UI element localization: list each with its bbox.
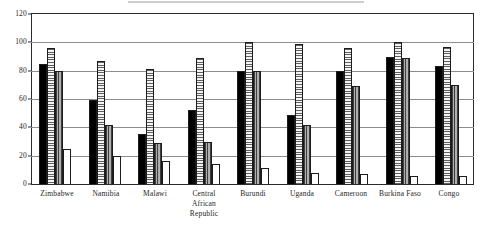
y-tick-label: 100 <box>15 39 27 47</box>
x-axis-label-line: Zimbabwe <box>34 189 80 199</box>
bar-group <box>237 14 269 184</box>
bar <box>105 125 113 185</box>
bar <box>188 110 196 184</box>
bar-group <box>386 14 418 184</box>
x-axis-label-line: Republic <box>181 209 227 219</box>
bar <box>146 69 154 184</box>
y-tick-label: 0 <box>23 180 27 188</box>
x-axis-label: Burkina Faso <box>377 186 423 232</box>
top-clipped-rule <box>128 1 364 3</box>
bar <box>311 173 319 184</box>
x-axis-labels: ZimbabweNamibiaMalawiCentralAfricanRepub… <box>31 186 474 232</box>
bar <box>154 143 162 184</box>
bar <box>212 164 220 184</box>
bar <box>196 58 204 184</box>
bar <box>352 86 360 184</box>
x-axis-label-line: Burkina Faso <box>377 189 423 199</box>
x-axis-label: Uganda <box>279 186 325 232</box>
bar <box>386 57 394 185</box>
y-tick-label: 20 <box>19 152 27 160</box>
bar-chart-figure: 020406080100120 ZimbabweNamibiaMalawiCen… <box>0 0 483 232</box>
bar <box>443 47 451 184</box>
bar <box>261 168 269 184</box>
bar <box>410 176 418 185</box>
bar <box>287 115 295 184</box>
bar <box>55 71 63 184</box>
bar <box>435 66 443 184</box>
y-tick-label: 120 <box>15 10 27 18</box>
x-axis-label-line: Congo <box>426 189 472 199</box>
y-tick-label: 60 <box>19 95 27 103</box>
x-axis-label-line: Malawi <box>132 189 178 199</box>
x-axis-label: Congo <box>426 186 472 232</box>
bar <box>360 174 368 184</box>
bar <box>459 176 467 185</box>
x-axis-label-line: Cameroon <box>328 189 374 199</box>
bar <box>245 42 253 184</box>
bar-group <box>435 14 467 184</box>
x-axis-label: Zimbabwe <box>34 186 80 232</box>
bar <box>47 48 55 184</box>
bar-group <box>336 14 368 184</box>
bar-group <box>39 14 71 184</box>
bar <box>451 85 459 184</box>
x-axis-label-line: African <box>181 199 227 209</box>
x-axis-label: Cameroon <box>328 186 374 232</box>
y-tick-label: 80 <box>19 67 27 75</box>
bar <box>303 125 311 185</box>
bar-group <box>89 14 121 184</box>
bar <box>402 58 410 184</box>
bar <box>295 44 303 184</box>
bar <box>162 161 170 184</box>
x-axis-label-line: Uganda <box>279 189 325 199</box>
x-axis-label: Namibia <box>83 186 129 232</box>
bar <box>97 61 105 184</box>
bar <box>39 64 47 184</box>
x-axis-label-line: Burundi <box>230 189 276 199</box>
bar <box>138 134 146 184</box>
bar-groups <box>32 14 473 184</box>
x-axis-label: Malawi <box>132 186 178 232</box>
x-axis-label: Burundi <box>230 186 276 232</box>
bar <box>394 42 402 184</box>
bar <box>113 156 121 184</box>
bar-group <box>287 14 319 184</box>
bar <box>344 48 352 184</box>
x-axis-label: CentralAfricanRepublic <box>181 186 227 232</box>
y-tick-label: 40 <box>19 124 27 132</box>
bar <box>237 71 245 184</box>
bar <box>89 100 97 184</box>
x-axis-label-line: Namibia <box>83 189 129 199</box>
plot-area <box>31 13 474 185</box>
bar <box>63 149 71 184</box>
x-axis-label-line: Central <box>181 189 227 199</box>
bar-group <box>188 14 220 184</box>
bar <box>253 71 261 184</box>
bar <box>336 71 344 184</box>
y-axis: 020406080100120 <box>0 13 31 185</box>
bar <box>204 142 212 185</box>
bar-group <box>138 14 170 184</box>
